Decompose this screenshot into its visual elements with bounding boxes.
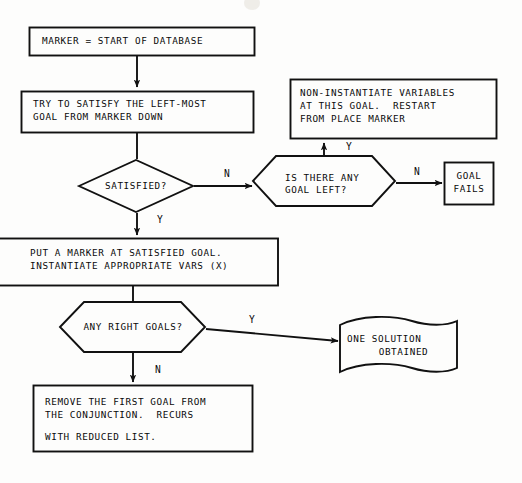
edge-right-goals-yes-to-one-solution xyxy=(206,329,338,341)
node-remove-first-goal-shape xyxy=(34,386,253,452)
flowchart-canvas: MARKER = START OF DATABASE TRY TO SATISF… xyxy=(0,0,522,483)
node-any-goal-left-shape xyxy=(253,156,395,206)
node-start-marker-shape xyxy=(30,28,255,56)
node-try-satisfy-shape xyxy=(22,92,254,133)
node-any-right-goals-shape xyxy=(60,302,205,352)
node-satisfied-shape xyxy=(79,160,193,212)
node-goal-fails-shape xyxy=(445,163,494,205)
node-non-instantiate-shape xyxy=(291,80,497,139)
flowchart-vector-layer xyxy=(0,0,522,483)
node-put-marker-shape xyxy=(0,239,278,286)
node-one-solution-shape xyxy=(340,317,457,372)
